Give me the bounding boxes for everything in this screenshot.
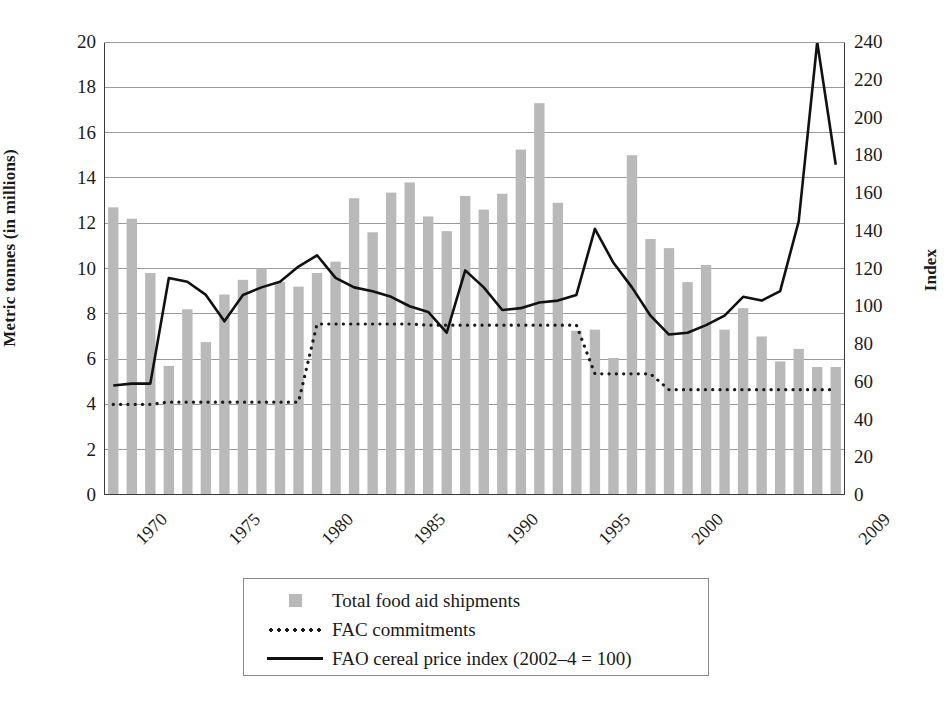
bar [386, 193, 396, 495]
legend-item: FAO cereal price index (2002–4 = 100) [244, 644, 708, 673]
y-axis-right-tick-label: 140 [854, 221, 900, 240]
x-axis-tick-label: 1975 [224, 509, 264, 549]
bar [312, 273, 322, 495]
bar [442, 231, 452, 495]
y-axis-right-tick-label: 220 [854, 70, 900, 89]
legend-item-label: FAO cereal price index (2002–4 = 100) [332, 648, 632, 670]
legend-list: Total food aid shipmentsFAC commitmentsF… [244, 579, 708, 673]
x-axis-tick-label: 1985 [410, 509, 450, 549]
bar [164, 366, 174, 495]
solid-line-swatch-icon [258, 657, 332, 660]
bar [719, 330, 729, 495]
y-axis-right-tick-label: 200 [854, 108, 900, 127]
x-axis-tick-label: 2009 [854, 509, 894, 549]
x-axis-tick-label: 1990 [502, 509, 542, 549]
bar [256, 269, 266, 496]
x-axis-tick-label: 1970 [132, 509, 172, 549]
bar-swatch [289, 594, 302, 607]
bar-swatch-icon [258, 594, 332, 607]
solid-line-swatch [267, 657, 323, 660]
bar [590, 330, 600, 495]
bar [460, 196, 470, 495]
y-axis-left-tick-label: 16 [56, 123, 96, 142]
x-axis-tick-label: 1980 [317, 509, 357, 549]
bar [775, 361, 785, 495]
bar [738, 308, 748, 495]
bar [367, 232, 377, 495]
bar [516, 150, 526, 495]
bar [794, 349, 804, 495]
y-axis-right-tick-label: 40 [854, 410, 900, 429]
chart-figure: Metric tonnes (in millions) Index 024681… [0, 0, 948, 715]
bar-series [108, 103, 841, 495]
bar [108, 207, 118, 495]
y-axis-left-tick-label: 20 [56, 32, 96, 51]
bar [608, 358, 618, 495]
bar [701, 265, 711, 495]
legend-item-label: Total food aid shipments [332, 590, 520, 612]
y-axis-right-tick-label: 160 [854, 183, 900, 202]
y-axis-left-title: Metric tonnes (in millions) [0, 0, 26, 495]
chart-legend: Total food aid shipmentsFAC commitmentsF… [243, 578, 709, 676]
y-axis-right-tick-label: 120 [854, 259, 900, 278]
chart-canvas [104, 42, 845, 495]
bar [423, 216, 433, 495]
y-axis-right-tick-label: 80 [854, 334, 900, 353]
y-axis-left-tick-label: 6 [56, 349, 96, 368]
y-axis-left-tick-label: 18 [56, 77, 96, 96]
dotted-line-swatch-icon [258, 628, 332, 632]
legend-item: Total food aid shipments [244, 586, 708, 615]
y-axis-right-title: Index [916, 180, 946, 360]
bar [664, 248, 674, 495]
legend-item: FAC commitments [244, 615, 708, 644]
bar [275, 282, 285, 495]
y-axis-right-tick-label: 60 [854, 372, 900, 391]
bar [238, 280, 248, 495]
y-axis-right-tick-label: 0 [854, 485, 900, 504]
bar [219, 295, 229, 495]
bar [330, 262, 340, 495]
y-axis-left-tick-label: 14 [56, 168, 96, 187]
bar [349, 198, 359, 495]
bar [645, 239, 655, 495]
y-axis-left-tick-label: 0 [56, 485, 96, 504]
legend-item-label: FAC commitments [332, 619, 476, 641]
bar [479, 210, 489, 495]
y-axis-left-title-text: Metric tonnes (in millions) [0, 149, 20, 347]
bar [812, 367, 822, 495]
bar [627, 155, 637, 495]
x-axis-tick-label: 2000 [688, 509, 728, 549]
bar [756, 336, 766, 495]
y-axis-left-tick-label: 8 [56, 304, 96, 323]
y-axis-left-tick-label: 2 [56, 440, 96, 459]
bar [534, 103, 544, 495]
y-axis-right-tick-label: 240 [854, 32, 900, 51]
y-axis-right-tick-label: 180 [854, 145, 900, 164]
bar [404, 182, 414, 495]
x-axis-tick-label: 1995 [595, 509, 635, 549]
bar [571, 331, 581, 495]
y-axis-left-tick-label: 10 [56, 259, 96, 278]
bar [201, 342, 211, 495]
dotted-line-swatch [267, 628, 323, 632]
bar [497, 194, 507, 495]
bar [553, 203, 563, 495]
bar [831, 367, 841, 495]
y-axis-left-tick-label: 4 [56, 394, 96, 413]
y-axis-left-tick-label: 12 [56, 213, 96, 232]
y-axis-right-tick-label: 100 [854, 296, 900, 315]
y-axis-right-title-text: Index [921, 249, 941, 292]
y-axis-right-tick-label: 20 [854, 447, 900, 466]
bar [127, 219, 137, 495]
plot-area: 02468101214161820 0204060801001201401601… [104, 42, 845, 495]
